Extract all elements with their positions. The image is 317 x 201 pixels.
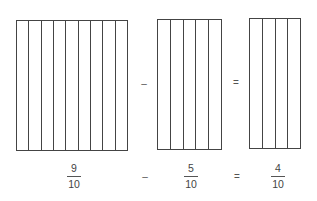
fraction-nine-tenths: 9 10 xyxy=(67,163,81,189)
numerator: 4 xyxy=(273,163,283,174)
minus-sign-top: – xyxy=(141,79,147,89)
minus-sign-bottom: – xyxy=(142,172,148,182)
fraction-four-tenths: 4 10 xyxy=(271,163,285,189)
bar-column xyxy=(171,20,184,149)
denominator: 10 xyxy=(185,179,197,190)
bar-column xyxy=(116,21,127,150)
bar-column xyxy=(184,20,197,149)
fraction-bar xyxy=(271,176,285,177)
bar-column xyxy=(276,19,289,148)
bar-column xyxy=(29,21,41,150)
numerator: 5 xyxy=(186,163,196,174)
numerator: 9 xyxy=(69,163,79,174)
bar-column xyxy=(158,20,171,149)
denominator: 10 xyxy=(68,179,80,190)
bar-column xyxy=(103,21,115,150)
bar-column xyxy=(79,21,91,150)
equals-sign-top: = xyxy=(233,78,239,88)
bar-column xyxy=(17,21,29,150)
bar-column xyxy=(288,19,300,148)
bar-column xyxy=(250,19,263,148)
bar-five-tenths xyxy=(157,19,222,150)
bar-column xyxy=(263,19,276,148)
bar-column xyxy=(42,21,54,150)
fraction-bar xyxy=(67,176,81,177)
bar-column xyxy=(196,20,209,149)
fraction-bar xyxy=(184,176,198,177)
equals-sign-bottom: = xyxy=(234,172,240,182)
bar-column xyxy=(54,21,66,150)
fraction-five-tenths: 5 10 xyxy=(184,163,198,189)
bar-column xyxy=(209,20,221,149)
bar-column xyxy=(91,21,103,150)
bar-nine-tenths xyxy=(16,20,128,151)
bar-column xyxy=(66,21,78,150)
denominator: 10 xyxy=(272,179,284,190)
bar-four-tenths xyxy=(249,18,301,149)
